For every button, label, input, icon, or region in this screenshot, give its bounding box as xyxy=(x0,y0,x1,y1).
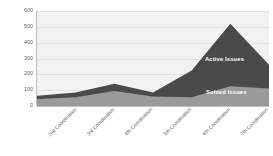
series-label-active-issues: Active Issues xyxy=(205,57,244,63)
x-axis-tick-label: 7th Coordination xyxy=(240,107,269,136)
x-axis-tick-label: 3rd Coordination xyxy=(85,107,115,137)
x-axis-tick-label: 5th Coordination xyxy=(163,107,192,136)
area-chart: 0100200300400500600 2nd Coordination3rd … xyxy=(0,0,273,156)
x-axis-tick-label: 2nd Coordination xyxy=(47,107,77,137)
y-axis-tick-label: 500 xyxy=(24,24,33,29)
x-axis-tick-label: 4th Coordination xyxy=(124,107,153,136)
y-axis-tick-label: 600 xyxy=(24,8,33,13)
series-label-solved-issues: Solved Issues xyxy=(206,90,247,96)
x-axis-tick-label: 6th Coordination xyxy=(201,107,230,136)
y-axis-tick-label: 200 xyxy=(24,72,33,77)
x-axis: 2nd Coordination3rd Coordination4th Coor… xyxy=(37,107,269,156)
y-axis-tick-label: 100 xyxy=(24,88,33,93)
y-axis-tick-label: 0 xyxy=(30,103,33,108)
y-axis: 0100200300400500600 xyxy=(0,0,37,116)
y-axis-tick-label: 300 xyxy=(24,56,33,61)
y-axis-tick-label: 400 xyxy=(24,40,33,45)
